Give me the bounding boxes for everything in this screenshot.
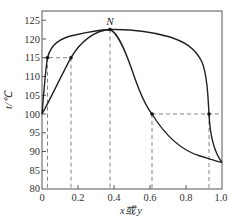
- x-tick-labels: 0 0.2 0.4 0.6 0.8 1.0: [39, 192, 227, 203]
- marked-points: [46, 28, 211, 116]
- y-tick-labels: 125 120 115 110 105 100 95 90 85 80: [24, 15, 40, 194]
- azeotrope-point-marker: [108, 28, 112, 32]
- y-tick-100: 100: [24, 109, 40, 120]
- phase-diagram-chart: 125 120 115 110 105 100 95 90 85 80 0 0.…: [0, 0, 235, 218]
- bubble-point-curve: [42, 30, 222, 163]
- point-marker: [69, 56, 73, 60]
- y-tick-95: 95: [30, 127, 41, 138]
- y-tick-85: 85: [30, 165, 41, 176]
- plot-frame: [42, 11, 222, 189]
- x-tick-0.8: 0.8: [179, 192, 192, 203]
- y-tick-115: 115: [25, 52, 40, 63]
- azeotrope-label: N: [105, 15, 114, 27]
- y-tick-125: 125: [24, 15, 40, 26]
- guide-lines: [42, 30, 222, 190]
- x-tick-0: 0: [39, 192, 44, 203]
- point-marker: [150, 112, 154, 116]
- y-tick-120: 120: [24, 34, 40, 45]
- y-tick-90: 90: [30, 146, 41, 157]
- x-tick-0.2: 0.2: [71, 192, 84, 203]
- x-tick-1.0: 1.0: [214, 192, 227, 203]
- x-axis-ticks: [78, 185, 186, 189]
- y-tick-110: 110: [25, 71, 40, 82]
- x-tick-0.4: 0.4: [107, 192, 121, 203]
- point-marker: [207, 112, 211, 116]
- x-tick-0.6: 0.6: [143, 192, 156, 203]
- dew-point-curve: [42, 29, 222, 162]
- y-tick-105: 105: [24, 90, 40, 101]
- point-marker: [46, 56, 50, 60]
- y-axis-label: t/℃: [3, 90, 14, 109]
- x-axis-label: x或 y: [119, 205, 142, 216]
